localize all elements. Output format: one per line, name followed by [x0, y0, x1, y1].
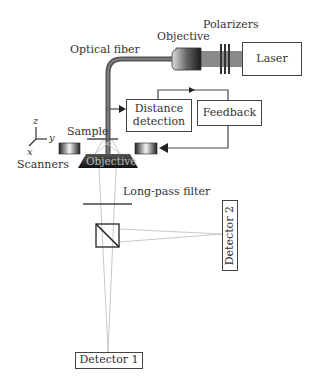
label-distance-detection-line2: detection	[133, 116, 185, 129]
label-optical-fiber: Optical fiber	[70, 44, 140, 55]
label-sample: Sample	[67, 126, 109, 137]
scanner-left	[59, 143, 80, 154]
label-detector-1: Detector 1	[79, 354, 138, 367]
distance-detection-box: Distance detection	[126, 99, 192, 132]
label-objective-top: Objective	[157, 31, 210, 42]
detector-2-box: Detector 2	[222, 200, 238, 271]
arrow-to-feedback	[189, 87, 195, 93]
objective-top-icon	[172, 48, 201, 70]
label-feedback: Feedback	[203, 107, 257, 120]
label-detector-2: Detector 2	[224, 206, 237, 265]
arrow-to-distance-detection	[119, 105, 126, 113]
label-polarizers: Polarizers	[203, 19, 259, 30]
label-long-pass-filter: Long-pass filter	[123, 186, 210, 197]
axis-x-label: x	[27, 147, 33, 157]
scanner-right	[135, 143, 157, 154]
label-objective-bottom: Objective	[86, 156, 136, 167]
arrow-to-scanner	[159, 143, 168, 153]
feedback-box: Feedback	[197, 100, 262, 126]
emission-beams	[95, 140, 222, 352]
label-scanners: Scanners	[17, 159, 69, 170]
axis-y-label: y	[49, 133, 55, 143]
axis-z-label: z	[33, 116, 38, 126]
polarizers-icon	[220, 44, 230, 74]
detector-1-box: Detector 1	[75, 352, 143, 369]
label-distance-detection-line1: Distance	[135, 103, 184, 116]
laser-box: Laser	[242, 42, 302, 76]
label-laser: Laser	[256, 53, 287, 66]
axis-indicator-icon	[29, 127, 47, 146]
